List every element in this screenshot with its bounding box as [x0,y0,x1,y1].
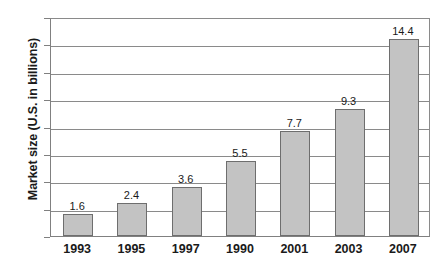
y-axis-title: Market size (U.S. in billions) [26,0,40,239]
bar-chart: Market size (U.S. in billions) 024681012… [0,0,442,268]
bar[interactable] [226,161,256,236]
bar[interactable] [63,214,93,236]
y-tick-mark [44,128,50,129]
bar-value-label: 9.3 [324,96,374,107]
bar-value-label: 7.7 [269,118,319,129]
x-tick-label: 1993 [47,243,107,256]
x-tick-label: 2007 [373,243,433,256]
bar-value-label: 5.5 [215,148,265,159]
x-tick-label: 2003 [319,243,379,256]
y-tick-mark [44,237,50,238]
bar-value-label: 14.4 [378,26,428,37]
x-tick-label: 2001 [264,243,324,256]
y-tick-mark [44,18,50,19]
bar[interactable] [117,203,147,236]
y-tick-mark [44,210,50,211]
bar[interactable] [172,187,202,236]
bar-value-label: 3.6 [161,174,211,185]
bar-value-label: 1.6 [52,201,102,212]
bar-value-label: 2.4 [106,190,156,201]
bar[interactable] [280,131,310,236]
x-tick-label: 1995 [101,243,161,256]
gridline [51,46,429,47]
plot-area [50,18,430,237]
y-tick-mark [44,73,50,74]
gridline [51,74,429,75]
y-tick-mark [44,182,50,183]
y-tick-mark [44,155,50,156]
x-tick-label: 1997 [156,243,216,256]
gridline [51,129,429,130]
bar[interactable] [335,109,365,236]
y-tick-mark [44,100,50,101]
y-tick-mark [44,45,50,46]
x-tick-label: 1990 [210,243,270,256]
bar[interactable] [389,39,419,236]
